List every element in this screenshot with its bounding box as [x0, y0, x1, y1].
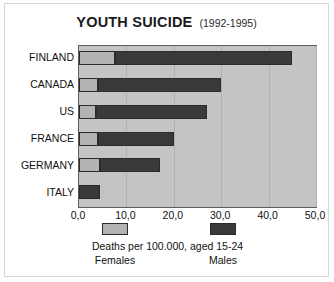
x-tick-label: 20,0	[163, 209, 183, 221]
y-axis-labels: FINLANDCANADAUSFRANCEGERMANYITALY	[5, 45, 74, 206]
bar-males-us	[96, 105, 207, 119]
y-axis-label-us: US	[4, 105, 74, 117]
bar-females-france	[79, 132, 98, 146]
bar-males-germany	[100, 158, 159, 172]
x-tick-label: 30,0	[210, 209, 230, 221]
bar-females-canada	[79, 78, 98, 92]
legend	[78, 223, 317, 237]
y-axis-label-italy: ITALY	[4, 186, 74, 198]
bar-row	[79, 46, 316, 73]
bar-row	[79, 100, 316, 127]
bar-females-us	[79, 105, 96, 119]
y-axis-label-finland: FINLAND	[4, 51, 74, 63]
page-title: YOUTH SUICIDE	[76, 14, 192, 30]
bar-males-france	[98, 132, 174, 146]
bar-males-italy	[79, 185, 100, 199]
bar-males-finland	[115, 51, 293, 65]
y-axis-label-france: FRANCE	[4, 132, 74, 144]
legend-swatch-females	[102, 223, 128, 235]
x-tick-label: 40,0	[257, 209, 277, 221]
chart-title-row: YOUTH SUICIDE(1992-1995)	[5, 13, 328, 31]
legend-label-males: Males	[209, 254, 237, 266]
bar-males-canada	[98, 78, 221, 92]
bar-females-germany	[79, 158, 100, 172]
legend-swatch-males	[210, 223, 236, 235]
y-axis-label-canada: CANADA	[4, 78, 74, 90]
bar-row	[79, 127, 316, 154]
chart-subtitle: (1992-1995)	[199, 17, 256, 29]
x-tick-label: 50,0	[305, 209, 325, 221]
x-axis-label: Deaths per 100.000, aged 15-24	[5, 240, 330, 252]
x-tick-label: 0,0	[71, 209, 86, 221]
plot-area	[78, 45, 317, 208]
legend-label-females: Females	[95, 254, 135, 266]
y-axis-label-germany: GERMANY	[4, 159, 74, 171]
bar-row	[79, 73, 316, 100]
chart-card: YOUTH SUICIDE(1992-1995) FINLANDCANADAUS…	[4, 3, 329, 277]
bar-row	[79, 180, 316, 207]
x-tick-label: 10,0	[115, 209, 135, 221]
legend-labels: FemalesMales	[78, 254, 317, 268]
gridline	[316, 46, 317, 207]
bar-row	[79, 153, 316, 180]
bar-females-finland	[79, 51, 115, 65]
